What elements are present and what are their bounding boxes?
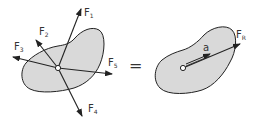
label-f5: F5 — [108, 57, 118, 69]
label-f2: F2 — [39, 26, 49, 38]
right-system: FR a — [155, 27, 246, 94]
label-f1: F1 — [84, 7, 94, 19]
concurrency-point — [55, 65, 60, 70]
center-of-mass-point — [180, 65, 185, 70]
left-rigid-body — [22, 28, 104, 92]
label-fr: FR — [236, 29, 246, 41]
left-system: F1 F2 F3 F5 F4 — [13, 7, 118, 116]
label-f3: F3 — [14, 41, 24, 53]
force-diagram: F1 F2 F3 F5 F4 = FR a — [0, 0, 258, 123]
label-a: a — [203, 42, 209, 53]
label-f4: F4 — [88, 103, 98, 115]
equals-sign: = — [129, 56, 142, 75]
